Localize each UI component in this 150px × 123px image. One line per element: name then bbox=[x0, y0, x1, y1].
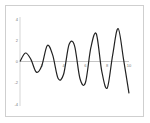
y-tick-label: 2 bbox=[16, 38, 19, 43]
y-tick-label: 4 bbox=[16, 17, 19, 22]
y-tick-label: -4 bbox=[14, 102, 18, 107]
x-tick-label: 6 bbox=[84, 63, 87, 68]
x-tick-label: 10 bbox=[127, 63, 132, 68]
series-line-signal bbox=[20, 29, 129, 94]
line-chart: 420-2-4246810 bbox=[0, 0, 150, 123]
y-tick-label: 0 bbox=[16, 59, 19, 64]
y-tick-label: -2 bbox=[14, 80, 18, 85]
x-tick-label: 8 bbox=[106, 63, 109, 68]
